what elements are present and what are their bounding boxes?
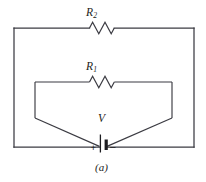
label-r2-subscript: 2 bbox=[93, 11, 97, 20]
label-positive-terminal: + bbox=[91, 143, 97, 153]
label-source-v: V bbox=[98, 113, 105, 125]
resistor-r2-zigzag bbox=[90, 22, 115, 34]
label-r1-subscript: 1 bbox=[93, 65, 97, 74]
circuit-schematic-svg bbox=[0, 0, 206, 182]
figure-caption: (a) bbox=[95, 162, 108, 173]
wire-inner-right-diagonal bbox=[107, 118, 172, 146]
label-r2-main: R bbox=[86, 6, 93, 18]
label-resistor-r2: R2 bbox=[86, 7, 97, 19]
label-r1-main: R bbox=[86, 60, 93, 72]
label-resistor-r1: R1 bbox=[86, 61, 97, 73]
resistor-r1-zigzag bbox=[90, 76, 115, 88]
label-negative-terminal: – bbox=[110, 142, 116, 152]
circuit-figure: R2 R1 V + – (a) bbox=[0, 0, 206, 182]
